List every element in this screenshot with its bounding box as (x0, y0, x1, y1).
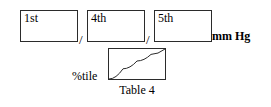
percentile-axis-label: %tile (72, 69, 97, 83)
percentile-input-box[interactable] (108, 48, 166, 80)
fourth-sound-input-box[interactable]: 4th (87, 10, 145, 42)
fifth-sound-input-box[interactable]: 5th (154, 10, 212, 42)
fourth-sound-label: 4th (91, 11, 106, 25)
unit-label-mm-hg: mm Hg (212, 29, 250, 43)
table-caption: Table 4 (108, 83, 166, 97)
percentile-curve-icon (109, 49, 165, 79)
first-sound-label: 1st (24, 11, 38, 25)
separator-slash-2: / (146, 33, 150, 46)
separator-slash-1: / (79, 33, 83, 46)
blood-pressure-entry-figure: 1st / 4th / 5th mm Hg %tile Table 4 (0, 0, 271, 107)
fifth-sound-label: 5th (158, 11, 173, 25)
first-sound-input-box[interactable]: 1st (20, 10, 78, 42)
